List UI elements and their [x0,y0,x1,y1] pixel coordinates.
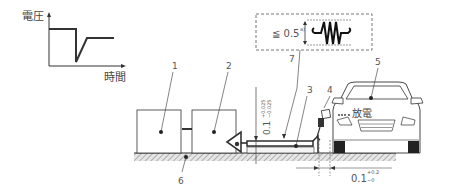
callout-7: 7 [289,54,295,64]
discharge-label: 放電 [352,107,372,119]
horizontal-gap-value: 0.1 [351,173,367,184]
vertical-gap-tol-lower: −0.025 [266,99,272,118]
spark-gap-label: ≦ 0.5 [272,28,299,39]
insulating-support [247,147,314,153]
charging-connector: 4 [317,85,333,140]
spark-detail-box: ≦ 0.5 a) [256,14,372,50]
vehicle-under-test: 放電 5 [332,57,423,153]
callout-2: 2 [226,61,232,71]
voltage-trace [49,29,114,62]
callout-6: 6 [178,176,184,186]
x-axis-label: 時間 [104,71,126,84]
spark-gap-footnote: a) [300,26,305,32]
callout-3: 3 [307,85,313,95]
callout-5: 5 [375,57,381,67]
ground-plane [134,153,396,161]
horizontal-gap-tol-lower: −0 [367,177,374,183]
callout-1: 1 [172,61,178,71]
inset-voltage-graph: 電圧 時間 [22,10,126,84]
horizontal-gap-tol-upper: +0.2 [367,169,379,175]
y-axis-arrow-icon [47,12,51,17]
spark-discharge-icon [313,22,351,44]
vertical-gap-value: 0.1 [262,121,272,135]
callout-4: 4 [327,85,333,95]
y-axis-label: 電圧 [22,10,44,23]
equipment-box-1 [137,110,181,153]
ground-reference-plate [247,141,313,146]
x-axis-arrow-icon [121,64,126,68]
